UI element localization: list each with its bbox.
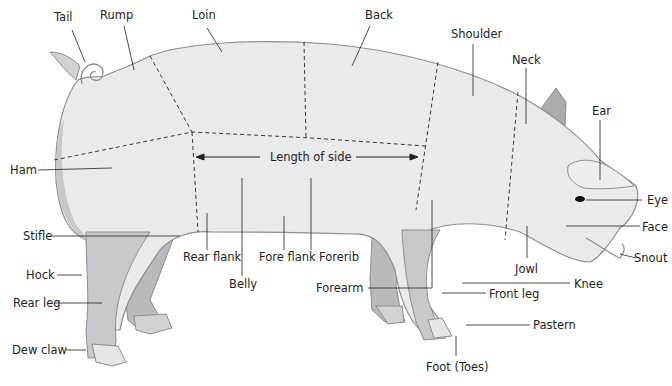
far-rear-hoof [134,314,172,334]
label-dew-claw: Dew claw [12,343,67,357]
label-knee: Knee [574,277,603,291]
label-shoulder: Shoulder [451,27,502,41]
near-ear [568,160,634,189]
label-foot-toes: Foot (Toes) [426,360,489,374]
label-neck: Neck [512,53,541,67]
label-fore-flank: Fore flank [259,250,316,264]
label-belly: Belly [229,277,257,291]
label-forerib: Forerib [319,250,359,264]
label-jowl: Jowl [515,262,538,276]
label-face: Face [642,220,668,234]
tail-tip [50,52,80,80]
eye-shape [575,196,585,202]
label-back: Back [365,8,393,22]
label-ham: Ham [10,163,37,177]
label-hock: Hock [26,268,55,282]
label-rear-flank: Rear flank [183,250,241,264]
label-loin: Loin [192,8,216,22]
label-front-leg: Front leg [489,287,539,301]
label-rear-leg: Rear leg [13,296,61,310]
label-tail: Tail [54,10,73,24]
label-snout: Snout [634,251,667,265]
label-length-of-side: Length of side [270,150,352,164]
label-pastern: Pastern [533,318,576,332]
label-forearm: Forearm [316,281,364,295]
label-stifle: Stifle [23,229,52,243]
pig-anatomy-diagram: Tail Rump Loin Back Shoulder Neck Ear Ey… [0,0,672,386]
label-ear: Ear [592,104,611,118]
label-eye: Eye [647,193,668,207]
label-rump: Rump [100,8,133,22]
rear-hoof [92,344,126,366]
